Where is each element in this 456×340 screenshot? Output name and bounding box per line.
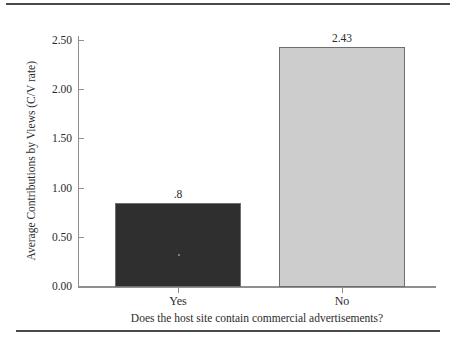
y-tick-mark-200 [79,89,84,90]
y-axis-line [78,36,79,287]
x-category-label-no: No [282,295,402,307]
y-axis-title: Average Contributions by Views (C/V rate… [26,31,38,291]
print-speck [178,254,180,256]
x-tick-mark-no [342,288,343,293]
y-tick-mark-150 [79,138,84,139]
bar-value-label-no: 2.43 [279,33,405,45]
y-tick-mark-250 [79,40,84,41]
x-axis-title: Does the host site contain commercial ad… [78,312,436,326]
x-category-label-yes: Yes [118,295,238,307]
bar-yes[interactable] [115,203,241,287]
bottom-divider-rule [16,330,440,332]
top-divider-rule [6,3,450,5]
y-tick-mark-100 [79,188,84,189]
x-tick-mark-yes [178,288,179,293]
bar-value-label-yes: .8 [115,189,241,201]
chart-figure: 2.50 2.00 1.50 1.00 0.50 0.00 .8 2.43 Ye… [0,0,456,340]
bar-no[interactable] [279,47,405,287]
y-tick-mark-000 [79,286,84,287]
y-tick-mark-050 [79,237,84,238]
